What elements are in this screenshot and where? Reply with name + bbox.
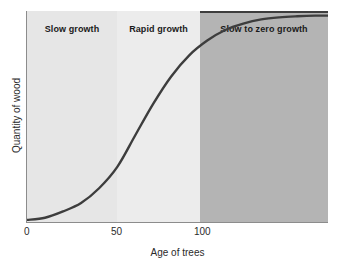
x-axis-line [26, 222, 328, 223]
y-axis-title: Quantity of wood [11, 46, 22, 186]
plot-area: Slow growth Rapid growth Slow to zero gr… [27, 11, 328, 222]
growth-curve-chart: Slow growth Rapid growth Slow to zero gr… [0, 0, 341, 274]
x-tick-label-0: 0 [24, 226, 30, 237]
x-tick-label-50: 50 [111, 226, 122, 237]
x-axis-title: Age of trees [27, 247, 328, 258]
growth-curve-line [27, 11, 328, 222]
x-tick-label-100: 100 [194, 226, 211, 237]
y-axis-line [26, 11, 27, 223]
